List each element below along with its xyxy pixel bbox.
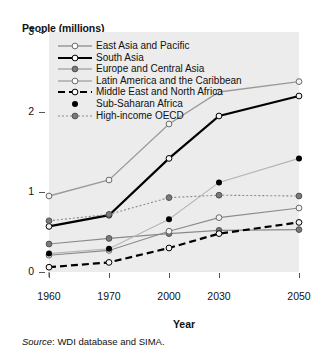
series-point (46, 241, 52, 247)
x-tick-mark-1960 (49, 273, 50, 278)
series-line-middle-east-and-north-africa (49, 222, 299, 267)
series-point (106, 246, 112, 252)
x-tick-mark-1970 (109, 273, 110, 278)
y-tick-mark-1 (39, 192, 45, 193)
x-tick-label-2030: 2030 (199, 290, 239, 302)
series-point (46, 264, 52, 270)
population-projection-chart: People (millions) 0123 19601970200020302… (0, 0, 324, 350)
legend-key-icon (58, 110, 92, 122)
series-point (296, 205, 302, 211)
legend-key-icon (58, 98, 92, 110)
x-tick-label-2000: 2000 (149, 290, 189, 302)
x-tick-label-2050: 2050 (279, 290, 319, 302)
y-tick-mark-0 (39, 272, 45, 273)
legend-item-label: Latin America and the Caribbean (96, 75, 242, 87)
series-point (216, 231, 222, 237)
series-point (166, 228, 172, 234)
legend-item-label: Sub-Saharan Africa (96, 98, 183, 110)
series-point (166, 156, 172, 162)
legend-key-icon (58, 63, 92, 75)
legend-item-label: Europe and Central Asia (96, 63, 204, 75)
x-tick-mark-2030 (219, 273, 220, 278)
series-point (296, 79, 302, 85)
source-note: Source: WDI database and SIMA. (22, 336, 165, 347)
series-point (216, 192, 222, 198)
legend-item-high-income-oecd[interactable]: High-income OECD (58, 110, 242, 122)
x-axis-title: Year (22, 318, 324, 330)
series-point (216, 215, 222, 221)
series-point (166, 216, 172, 222)
y-tick-label-3: 3 (18, 25, 34, 37)
series-point (46, 218, 52, 224)
legend-item-label: East Asia and Pacific (96, 40, 189, 52)
legend-item-label: Middle East and North Africa (96, 86, 223, 98)
series-point (216, 179, 222, 185)
series-point (296, 227, 302, 233)
series-point (166, 195, 172, 201)
x-tick-label-1960: 1960 (29, 290, 69, 302)
series-point (46, 224, 52, 230)
series-line-high-income-oecd (49, 195, 299, 221)
series-point (106, 260, 112, 266)
legend-item-label: High-income OECD (96, 110, 184, 122)
legend-item-label: South Asia (96, 52, 144, 64)
series-line-europe-and-central-asia (49, 230, 299, 244)
legend-item-south-asia[interactable]: South Asia (58, 52, 242, 64)
series-point (296, 193, 302, 199)
legend-item-sub-saharan-africa[interactable]: Sub-Saharan Africa (58, 98, 242, 110)
chart-legend: East Asia and PacificSouth AsiaEurope an… (58, 40, 242, 121)
legend-item-middle-east-and-north-africa[interactable]: Middle East and North Africa (58, 86, 242, 98)
series-point (106, 236, 112, 242)
legend-key-icon (58, 75, 92, 87)
series-line-sub-saharan-africa (49, 158, 299, 253)
legend-item-latin-america-and-the-caribbean[interactable]: Latin America and the Caribbean (58, 75, 242, 87)
y-tick-mark-3 (39, 32, 45, 33)
series-point (46, 251, 52, 257)
series-point (106, 177, 112, 183)
x-tick-label-1970: 1970 (89, 290, 129, 302)
x-tick-mark-2050 (299, 273, 300, 278)
y-tick-label-0: 0 (18, 265, 34, 277)
series-point (296, 155, 302, 161)
legend-key-icon (58, 40, 92, 52)
source-label: Source (22, 336, 52, 347)
legend-key-icon (58, 86, 92, 98)
series-point (296, 93, 302, 99)
series-point (46, 193, 52, 199)
legend-item-europe-and-central-asia[interactable]: Europe and Central Asia (58, 63, 242, 75)
series-point (106, 212, 112, 218)
y-tick-label-2: 2 (18, 105, 34, 117)
legend-key-icon (58, 52, 92, 64)
series-point (166, 245, 172, 251)
y-tick-label-1: 1 (18, 185, 34, 197)
series-point (166, 121, 172, 127)
legend-item-east-asia-and-pacific[interactable]: East Asia and Pacific (58, 40, 242, 52)
source-text: : WDI database and SIMA. (52, 336, 164, 347)
y-tick-mark-2 (39, 112, 45, 113)
x-tick-mark-2000 (169, 273, 170, 278)
series-point (296, 220, 302, 226)
